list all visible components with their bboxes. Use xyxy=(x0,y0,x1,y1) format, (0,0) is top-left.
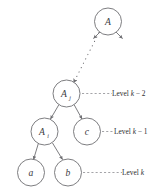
node-Aj: A j xyxy=(53,80,80,107)
node-A: A xyxy=(95,8,122,35)
edge-A-to-Aj-dotted xyxy=(74,33,100,84)
node-c-label: c xyxy=(85,126,90,137)
edge-A-stub-right xyxy=(116,32,123,39)
level-label-k-minus-1: Level k − 1 xyxy=(114,127,148,136)
node-b-label: b xyxy=(66,167,71,178)
level-label-k-minus-2-suffix: − 2 xyxy=(134,89,146,98)
node-b: b xyxy=(55,159,82,186)
level-label-k-minus-2: Level k − 2 xyxy=(112,89,146,98)
edge-Aj-to-c xyxy=(74,105,82,120)
level-label-k-prefix: Level xyxy=(122,168,141,177)
node-c: c xyxy=(74,118,101,145)
node-A-label: A xyxy=(104,16,111,27)
node-Ai-label: A xyxy=(38,126,45,137)
tree-diagram-canvas: A A j A i c a b Level k − 2 xyxy=(0,0,155,194)
node-a-label: a xyxy=(29,167,34,178)
node-a: a xyxy=(18,159,45,186)
edge-Ai-to-a xyxy=(34,143,39,160)
level-label-k-minus-2-prefix: Level xyxy=(112,89,131,98)
level-label-k-minus-1-prefix: Level xyxy=(114,127,133,136)
tree-diagram: A A j A i c a b Level k − 2 xyxy=(0,0,155,194)
node-Ai: A i xyxy=(31,118,58,145)
edge-Ai-to-b xyxy=(53,143,63,160)
svg-text:Level k: Level k xyxy=(122,168,145,177)
node-Aj-label: A xyxy=(60,88,67,99)
svg-text:Level k − 2: Level k − 2 xyxy=(112,89,146,98)
level-label-k-var: k xyxy=(141,168,145,177)
node-Aj-subscript: j xyxy=(68,95,71,101)
edge-Aj-to-Ai xyxy=(51,105,60,120)
svg-text:Level k − 1: Level k − 1 xyxy=(114,127,148,136)
level-label-k-minus-1-suffix: − 1 xyxy=(136,127,148,136)
level-label-k: Level k xyxy=(122,168,145,177)
